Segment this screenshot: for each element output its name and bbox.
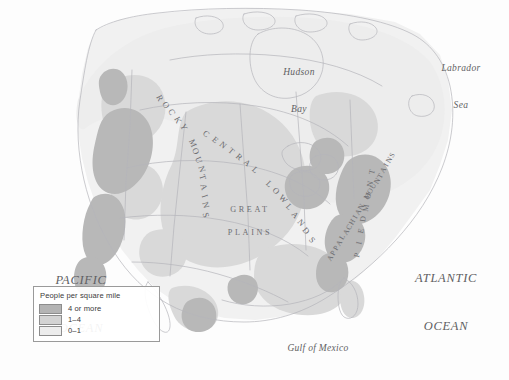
legend-title: People per square mile xyxy=(40,291,154,300)
label-great-plains-line2: PLAINS xyxy=(212,228,288,237)
legend-label-4-or-more: 4 or more xyxy=(68,304,101,313)
legend-row-4-or-more: 4 or more xyxy=(39,303,154,314)
legend-row-1-4: 1–4 xyxy=(39,314,154,325)
legend-swatch-4-or-more xyxy=(39,304,62,314)
legend: People per square mile 4 or more 1–4 0–1 xyxy=(33,286,160,342)
legend-swatch-1-4 xyxy=(39,315,62,325)
legend-label-0-1: 0–1 xyxy=(68,326,81,335)
glyph: N xyxy=(365,180,375,187)
glyph: O xyxy=(363,192,373,199)
legend-rows: 4 or more 1–4 0–1 xyxy=(39,303,154,336)
label-great-plains-line1: GREAT xyxy=(212,205,288,214)
legend-row-0-1: 0–1 xyxy=(39,325,154,336)
population-density-map: PACIFIC OCEAN ATLANTIC OCEAN Hudson Bay … xyxy=(0,0,509,380)
legend-swatch-0-1 xyxy=(39,326,62,336)
legend-label-1-4: 1–4 xyxy=(68,315,81,324)
glyph: M xyxy=(361,203,371,212)
